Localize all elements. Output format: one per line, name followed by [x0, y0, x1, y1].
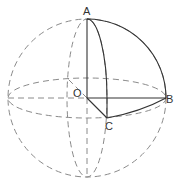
- label-C: C: [105, 120, 113, 132]
- arc-AB: [87, 19, 166, 98]
- sphere-diagram: A B C O: [0, 0, 179, 185]
- arc-CB: [107, 98, 166, 118]
- label-O: O: [73, 87, 82, 99]
- label-A: A: [83, 5, 91, 17]
- arc-AC: [87, 19, 107, 118]
- label-B: B: [166, 93, 173, 105]
- segment-OC: [87, 98, 107, 118]
